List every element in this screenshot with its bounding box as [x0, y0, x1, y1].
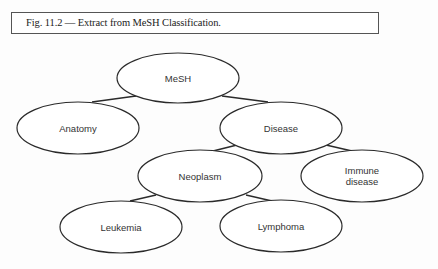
edge-neoplasm-to-leukemia — [130, 195, 156, 201]
node-label: Neoplasm — [179, 171, 222, 182]
node-disease: Disease — [220, 102, 342, 154]
node-label: Disease — [264, 123, 298, 134]
node-immune-disease: Immunedisease — [301, 150, 423, 202]
edge-disease-to-neoplasm — [213, 145, 237, 151]
edge-mesh-to-disease — [222, 96, 268, 102]
node-label: Anatomy — [59, 123, 97, 134]
node-label: Lymphoma — [258, 221, 305, 232]
node-neoplasm: Neoplasm — [138, 150, 262, 202]
node-lymphoma: Lymphoma — [220, 200, 342, 252]
node-leukemia: Leukemia — [60, 201, 182, 253]
mesh-classification-tree: MeSHAnatomyDiseaseNeoplasmImmunediseaseL… — [0, 0, 438, 269]
tree-nodes: MeSHAnatomyDiseaseNeoplasmImmunediseaseL… — [17, 53, 423, 253]
node-label: Immune — [345, 165, 379, 176]
node-label: disease — [346, 176, 379, 187]
node-label: MeSH — [165, 73, 192, 84]
node-anatomy: Anatomy — [17, 102, 139, 154]
cutoff-text-fragment — [0, 264, 438, 269]
node-mesh: MeSH — [117, 53, 239, 103]
edge-mesh-to-anatomy — [92, 96, 136, 102]
node-label: Leukemia — [100, 222, 142, 233]
